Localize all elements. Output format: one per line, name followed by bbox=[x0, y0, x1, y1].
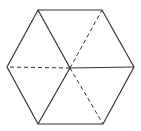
dashed-line-left bbox=[7, 67, 70, 68]
dashed-line-top-right bbox=[70, 10, 102, 68]
dashed-line-bottom-right bbox=[70, 68, 103, 124]
solid-line-bottom-left bbox=[38, 68, 70, 124]
solid-line-top-left bbox=[38, 10, 70, 68]
solid-line-right bbox=[70, 67, 134, 68]
hexagon-diagram bbox=[0, 0, 141, 131]
